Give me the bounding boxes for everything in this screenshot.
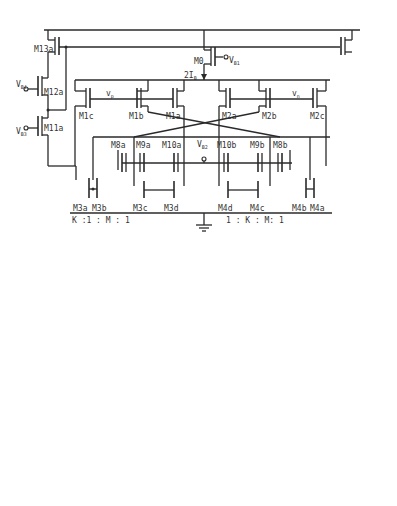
vb2-label-a: VB2 <box>197 140 208 150</box>
m12a-label: M12a <box>44 88 63 97</box>
m2b-label-a: M2b <box>262 112 277 121</box>
m4d-label-a: M4d <box>218 204 233 213</box>
m9a-label-a: M9a <box>136 141 151 150</box>
figure-a-drfc: M13a VB4 M12a VB3 M11a VB1 <box>16 30 360 231</box>
mirror-row-a: M3a M3b M3c M3d M4d M4c M4b M4a K :1 : M… <box>70 178 332 231</box>
m4b-label-a: M4b <box>292 204 307 213</box>
m8b-label-a: M8b <box>273 141 288 150</box>
m1c-label-a: M1c <box>79 112 94 121</box>
m11a-label: M11a <box>44 124 63 133</box>
m3d-label-a: M3d <box>164 204 179 213</box>
m8a-label-a: M8a <box>111 141 126 150</box>
m2c-label-a: M2c <box>310 112 325 121</box>
vb4-label-a: VB4 <box>16 80 27 90</box>
cascode-row-a: M8a M9a M10a M10b M9b M8b VB2 <box>93 137 310 186</box>
svg-text:1 : K : M: 1: 1 : K : M: 1 <box>226 216 284 225</box>
m10a-label-a: M10a <box>162 141 181 150</box>
vn-label-a: vn <box>292 89 300 99</box>
m3a-label-a: M3a <box>73 204 88 213</box>
m4a-label-a: M4a <box>310 204 325 213</box>
vb1-label-a: VB1 <box>229 56 240 66</box>
m4c-label-a: M4c <box>250 204 265 213</box>
m3b-label-a: M3b <box>92 204 107 213</box>
m10b-label-a: M10b <box>217 141 236 150</box>
input-pair-left-a: M1c M1b M1a vp <box>75 80 184 166</box>
m13a-label: M13a <box>34 45 53 54</box>
ratio-row-a: K :1 : M : 1 <box>72 216 130 225</box>
m1b-label-a: M1b <box>129 112 144 121</box>
m0-label-a: M0 <box>194 57 204 66</box>
m9b-label-a: M9b <box>250 141 265 150</box>
m3c-label-a: M3c <box>133 204 148 213</box>
circuit-diagram: M13a VB4 M12a VB3 M11a VB1 <box>0 0 397 506</box>
